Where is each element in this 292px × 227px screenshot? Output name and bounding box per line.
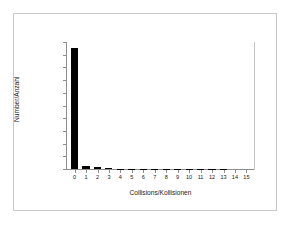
y-tick-mark bbox=[63, 156, 66, 157]
bar bbox=[128, 169, 135, 170]
x-tick-mark bbox=[212, 170, 213, 173]
bar bbox=[105, 168, 112, 169]
x-tick-mark bbox=[201, 170, 202, 173]
bar bbox=[140, 169, 147, 170]
y-tick-mark bbox=[63, 106, 66, 107]
x-axis-line bbox=[66, 169, 255, 170]
y-tick-mark bbox=[63, 131, 66, 132]
bar bbox=[151, 169, 158, 170]
y-tick-mark bbox=[63, 80, 66, 81]
x-tick-mark bbox=[109, 170, 110, 173]
y-tick-mark bbox=[63, 93, 66, 94]
y-tick-mark bbox=[63, 169, 66, 170]
y-tick-mark bbox=[63, 144, 66, 145]
x-tick-mark bbox=[189, 170, 190, 173]
bar bbox=[82, 166, 89, 169]
x-tick-mark bbox=[120, 170, 121, 173]
x-tick-label: 15 bbox=[239, 175, 253, 181]
x-tick-mark bbox=[155, 170, 156, 173]
x-tick-mark bbox=[246, 170, 247, 173]
x-tick-mark bbox=[75, 170, 76, 173]
plot-right-rule bbox=[254, 42, 255, 170]
plot-area: 0100000200000300000400000500000600000700… bbox=[66, 42, 255, 170]
y-tick-mark bbox=[63, 118, 66, 119]
bar bbox=[208, 169, 215, 170]
y-axis-line bbox=[66, 42, 67, 170]
x-tick-mark bbox=[235, 170, 236, 173]
x-tick-mark bbox=[86, 170, 87, 173]
bar bbox=[186, 169, 193, 170]
bar bbox=[220, 169, 227, 170]
bar bbox=[117, 169, 124, 170]
y-tick-mark bbox=[63, 42, 66, 43]
bar bbox=[174, 169, 181, 170]
bar bbox=[163, 169, 170, 170]
y-axis-title: Number/Anzahl bbox=[14, 54, 21, 144]
x-tick-mark bbox=[132, 170, 133, 173]
x-tick-mark bbox=[178, 170, 179, 173]
x-tick-mark bbox=[98, 170, 99, 173]
x-tick-mark bbox=[143, 170, 144, 173]
x-tick-mark bbox=[166, 170, 167, 173]
bar bbox=[197, 169, 204, 170]
y-tick-mark bbox=[63, 55, 66, 56]
x-axis-title: Collisions/Kollisionen bbox=[66, 190, 255, 197]
figure-canvas: 0100000200000300000400000500000600000700… bbox=[0, 0, 292, 227]
x-tick-mark bbox=[224, 170, 225, 173]
bar bbox=[94, 167, 101, 169]
y-tick-mark bbox=[63, 67, 66, 68]
bar bbox=[71, 48, 78, 169]
